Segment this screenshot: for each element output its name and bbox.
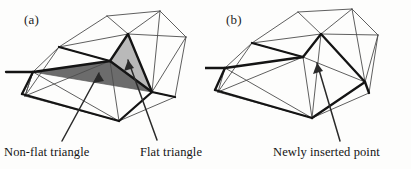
caption-flat-triangle: Flat triangle	[140, 145, 202, 160]
panel-b: (b)	[205, 0, 411, 169]
caption-newly-inserted-point: Newly inserted point	[273, 145, 380, 160]
panel-a-tag: (a)	[24, 12, 39, 28]
caption-non-flat-triangle: Non-flat triangle	[4, 145, 89, 160]
panel-b-tag: (b)	[226, 12, 242, 28]
thin-mesh-edges-group-b	[218, 9, 378, 118]
figure-mesh-refinement: (a)	[0, 0, 411, 169]
panel-a: (a)	[0, 0, 206, 169]
